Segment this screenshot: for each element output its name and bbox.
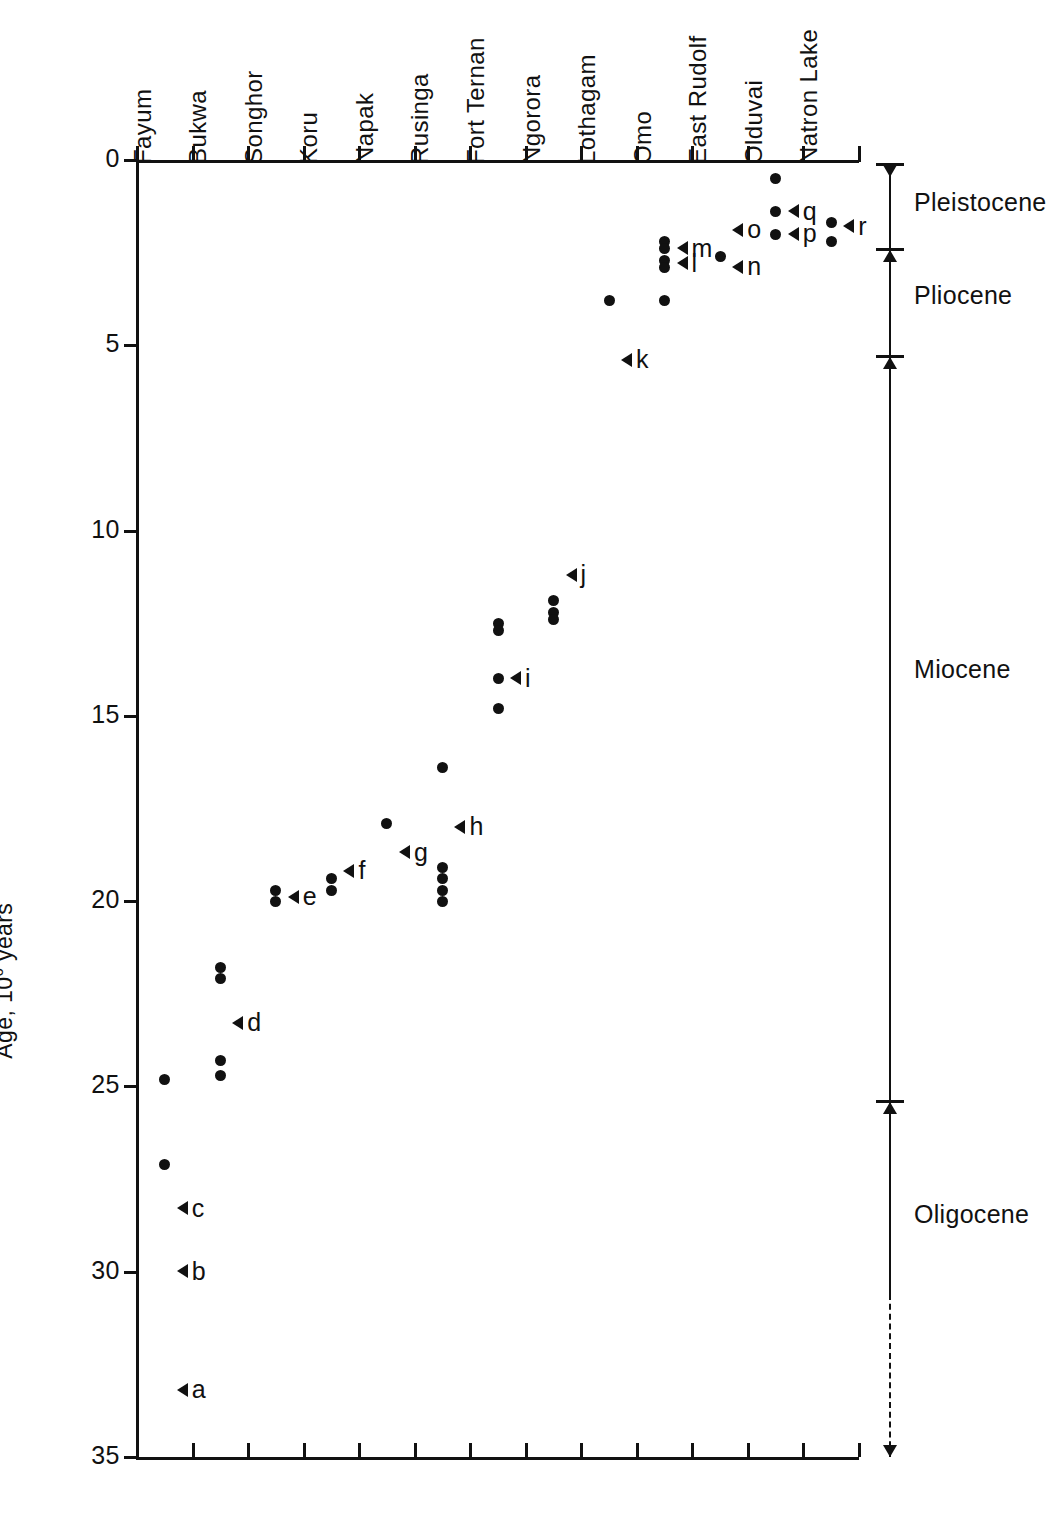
y-axis-tick-label: 20	[62, 887, 120, 912]
site-label-olduvai: Olduvai	[742, 80, 766, 164]
annotation-letter: l	[692, 251, 698, 276]
left-triangle-icon	[177, 1201, 188, 1215]
site-label-napak: Napak	[353, 93, 377, 164]
data-point	[715, 251, 726, 262]
point-annotation-l: l	[677, 251, 698, 276]
y-axis-tick-label-wrap: 0	[40, 146, 120, 172]
x-axis-bottom-line	[137, 1457, 859, 1460]
x-axis-bottom-tick	[858, 1443, 861, 1457]
site-label-bukwa: Bukwa	[186, 90, 210, 164]
data-point	[437, 885, 448, 896]
y-axis-tick	[124, 1271, 138, 1274]
data-point	[437, 762, 448, 773]
left-triangle-icon	[621, 353, 632, 367]
x-axis-bottom-tick	[358, 1443, 361, 1457]
data-point	[548, 595, 559, 606]
epoch-arrow-up-icon	[883, 1102, 897, 1114]
point-annotation-a: a	[177, 1377, 206, 1402]
epoch-label-miocene: Miocene	[914, 657, 1011, 682]
data-point	[770, 173, 781, 184]
data-point	[437, 896, 448, 907]
left-triangle-icon	[177, 1264, 188, 1278]
data-point	[159, 1159, 170, 1170]
data-point	[270, 896, 281, 907]
point-annotation-c: c	[177, 1196, 205, 1221]
data-point	[381, 818, 392, 829]
epoch-arrow-down-icon	[883, 165, 897, 177]
x-axis-bottom-tick	[525, 1443, 528, 1457]
y-axis-tick-label: 10	[62, 517, 120, 542]
data-point	[437, 873, 448, 884]
epoch-label-pliocene: Pliocene	[914, 283, 1012, 308]
x-axis-bottom-tick	[580, 1443, 583, 1457]
annotation-letter: r	[858, 214, 867, 239]
x-axis-bottom-tick	[414, 1443, 417, 1457]
left-triangle-icon	[343, 864, 354, 878]
site-label-ngorora: Ngorora	[520, 74, 544, 164]
y-axis-tick-label: 30	[62, 1258, 120, 1283]
annotation-letter: i	[525, 666, 531, 691]
left-triangle-icon	[788, 227, 799, 241]
point-annotation-b: b	[177, 1259, 206, 1284]
data-point	[215, 1070, 226, 1081]
annotation-letter: g	[414, 840, 428, 865]
site-label-fayum: Fayum	[131, 89, 155, 164]
site-label-lothagam: Lothagam	[575, 54, 599, 164]
x-axis-tick	[858, 146, 861, 162]
annotation-letter: n	[747, 254, 761, 279]
left-triangle-icon	[732, 260, 743, 274]
data-point	[437, 862, 448, 873]
annotation-letter: f	[358, 858, 365, 883]
data-point	[659, 243, 670, 254]
epoch-axis-line-dashed	[889, 1294, 891, 1457]
data-point	[659, 295, 670, 306]
data-point	[270, 885, 281, 896]
y-axis-tick-label: 5	[62, 331, 120, 356]
data-point	[215, 962, 226, 973]
y-axis-tick	[124, 159, 138, 162]
site-label-fort-ternan: Fort Ternan	[464, 37, 488, 164]
y-axis-title: Age, 106 years	[0, 903, 18, 1059]
data-point	[826, 217, 837, 228]
data-point	[770, 206, 781, 217]
y-axis-tick-label: 35	[62, 1443, 120, 1468]
epoch-arrow-up-icon	[883, 357, 897, 369]
data-point	[326, 873, 337, 884]
left-triangle-icon	[288, 890, 299, 904]
x-axis-bottom-tick	[469, 1443, 472, 1457]
data-point	[826, 236, 837, 247]
annotation-letter: j	[581, 562, 587, 587]
y-axis-tick-label-wrap: 20	[40, 887, 120, 913]
left-triangle-icon	[454, 820, 465, 834]
y-axis-tick-label: 25	[62, 1072, 120, 1097]
site-label-koru: Koru	[297, 112, 321, 164]
point-annotation-r: r	[843, 214, 867, 239]
point-annotation-g: g	[399, 840, 428, 865]
data-point	[659, 262, 670, 273]
point-annotation-p: p	[788, 221, 817, 246]
epoch-arrow-down-icon	[883, 1445, 897, 1457]
x-axis-bottom-tick	[636, 1443, 639, 1457]
point-annotation-d: d	[232, 1010, 261, 1035]
y-axis-tick-label-wrap: 5	[40, 331, 120, 357]
annotation-letter: p	[803, 221, 817, 246]
data-point	[604, 295, 615, 306]
data-point	[326, 885, 337, 896]
point-annotation-e: e	[288, 884, 317, 909]
data-point	[215, 1055, 226, 1066]
data-point	[215, 973, 226, 984]
point-annotation-k: k	[621, 347, 649, 372]
annotation-letter: a	[192, 1377, 206, 1402]
y-axis-tick-label-wrap: 25	[40, 1072, 120, 1098]
y-axis-tick-label: 0	[62, 146, 120, 171]
data-point	[493, 703, 504, 714]
left-triangle-icon	[177, 1383, 188, 1397]
left-triangle-icon	[566, 568, 577, 582]
y-axis-title-exponent: 6	[0, 968, 6, 977]
point-annotation-j: j	[566, 562, 587, 587]
site-label-east-rudolf: East Rudolf	[686, 36, 710, 164]
data-point	[770, 229, 781, 240]
annotation-letter: k	[636, 347, 649, 372]
left-triangle-icon	[677, 256, 688, 270]
